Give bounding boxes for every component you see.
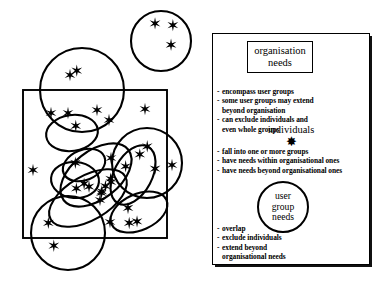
bullet-item: -have needs beyond organisational ones <box>217 166 342 175</box>
user-group-needs-line3: needs <box>272 212 294 223</box>
bullet-text: fall into one or more groups <box>222 147 342 156</box>
bullet-item: -some user groups may extend <box>217 96 314 105</box>
user-group-ellipse <box>131 11 191 71</box>
bullet-item: -extend beyond <box>217 243 286 252</box>
bullet-item: -have needs within organisational ones <box>217 156 342 165</box>
individual-star-icon <box>71 64 82 76</box>
individual-star-icon <box>150 17 161 29</box>
individual-star-icon <box>48 239 59 251</box>
bullet-text: extend beyond <box>222 243 286 252</box>
explanation-panel: organisation needs -encompass user group… <box>212 33 370 265</box>
bullet-text: some user groups may extend <box>222 96 314 105</box>
bullet-text-continuation: beyond organisation <box>217 106 314 115</box>
organisation-needs-line1: organisation <box>252 45 308 57</box>
bullet-text: encompass user groups <box>222 87 314 96</box>
individual-star-icon <box>166 39 177 51</box>
bullet-item: -fall into one or more groups <box>217 147 342 156</box>
bullet-text: have needs within organisational ones <box>222 156 342 165</box>
bullet-item: -overlap <box>217 224 286 233</box>
figure-root: organisation needs -encompass user group… <box>0 0 381 290</box>
bullet-text: have needs beyond organisational ones <box>222 166 342 175</box>
bullet-item: -exclude individuals <box>217 233 286 242</box>
bullet-item: -encompass user groups <box>217 87 314 96</box>
organisation-needs-heading-box: organisation needs <box>247 41 313 73</box>
user-group-needs-bullets: -overlap-exclude individuals-extend beyo… <box>217 224 286 262</box>
organisation-needs-line2: needs <box>252 57 308 69</box>
individual-star-icon <box>168 19 179 31</box>
organisation-venn-diagram <box>0 0 210 290</box>
individuals-bullets: -fall into one or more groups-have needs… <box>217 147 342 175</box>
user-group-needs-line1: user <box>275 191 291 202</box>
individual-star-icon <box>65 69 76 81</box>
bullet-text: exclude individuals <box>222 233 286 242</box>
bullet-text-continuation: organisational needs <box>217 252 286 261</box>
bullet-text: overlap <box>222 224 286 233</box>
individual-star-icon <box>167 159 178 171</box>
